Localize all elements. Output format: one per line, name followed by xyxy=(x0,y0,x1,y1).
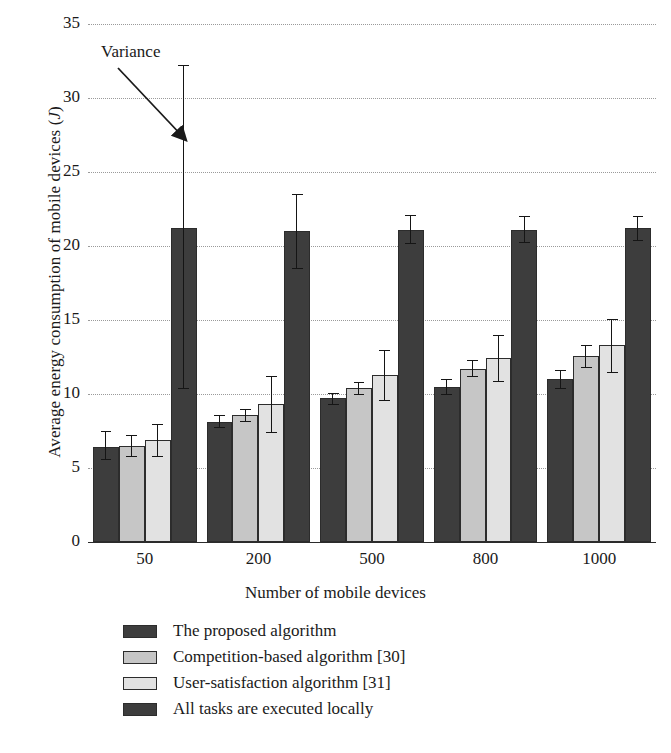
error-bar-cap-top xyxy=(581,345,592,346)
error-bar-line xyxy=(105,431,106,459)
error-bar-cap-bottom xyxy=(519,242,530,243)
legend-swatch-icon xyxy=(123,677,157,690)
error-bar-cap-bottom xyxy=(467,376,478,377)
bar xyxy=(434,387,460,542)
error-bar-cap-bottom xyxy=(328,404,339,405)
bar-group xyxy=(434,24,538,542)
error-bar-cap-bottom xyxy=(214,427,225,428)
error-bar-cap-top xyxy=(126,435,137,436)
error-bar-line xyxy=(131,435,132,456)
error-bar-cap-top xyxy=(354,382,365,383)
bar xyxy=(320,398,346,542)
error-bar-cap-top xyxy=(152,424,163,425)
y-axis-tick-label: 5 xyxy=(10,457,80,477)
error-bar-line xyxy=(271,376,272,432)
error-bar-cap-bottom xyxy=(607,372,618,373)
error-bar-cap-bottom xyxy=(178,388,189,389)
error-bar-line xyxy=(472,360,473,376)
error-bar-line xyxy=(332,393,333,405)
legend-item[interactable]: The proposed algorithm xyxy=(123,618,593,644)
error-bar-line xyxy=(219,415,220,427)
bar xyxy=(93,447,119,542)
error-bar-cap-bottom xyxy=(354,394,365,395)
error-bar-cap-bottom xyxy=(152,456,163,457)
x-axis-tick-label: 1000 xyxy=(539,549,659,569)
error-bar-cap-top xyxy=(467,360,478,361)
y-axis-title-unit: J xyxy=(45,112,64,120)
legend-label: Competition-based algorithm [30] xyxy=(173,647,405,667)
error-bar-cap-top xyxy=(266,376,277,377)
bar xyxy=(573,356,599,542)
bar xyxy=(346,388,372,542)
bar xyxy=(119,446,145,542)
error-bar-cap-bottom xyxy=(240,421,251,422)
bar xyxy=(547,379,573,542)
legend-label: All tasks are executed locally xyxy=(173,699,373,719)
error-bar-cap-bottom xyxy=(266,432,277,433)
legend-item[interactable]: All tasks are executed locally xyxy=(123,696,593,722)
error-bar-line xyxy=(358,382,359,394)
bar xyxy=(284,231,310,542)
y-axis-tick-label: 25 xyxy=(10,161,80,181)
bar xyxy=(207,422,233,542)
x-axis-tick-label: 50 xyxy=(85,549,205,569)
error-bar-cap-bottom xyxy=(493,381,504,382)
legend-label: User-satisfaction algorithm [31] xyxy=(173,673,391,693)
variance-annotation-label: Variance xyxy=(101,42,160,62)
y-axis-tick-label: 20 xyxy=(10,235,80,255)
error-bar-cap-top xyxy=(493,335,504,336)
error-bar-cap-top xyxy=(441,379,452,380)
error-bar-cap-top xyxy=(555,370,566,371)
x-axis-tick-label: 500 xyxy=(312,549,432,569)
bar xyxy=(398,230,424,542)
legend: The proposed algorithmCompetition-based … xyxy=(123,618,593,722)
bar-group xyxy=(207,24,311,542)
variance-annotation-arrow-icon xyxy=(112,62,222,152)
error-bar-line xyxy=(560,370,561,388)
error-bar-cap-top xyxy=(405,215,416,216)
legend-swatch-icon xyxy=(123,703,157,716)
error-bar-cap-top xyxy=(519,216,530,217)
error-bar-line xyxy=(611,319,612,372)
y-axis-tick-label: 30 xyxy=(10,87,80,107)
y-axis-title-suffix: ) xyxy=(45,106,64,112)
error-bar-line xyxy=(498,335,499,381)
bar xyxy=(599,345,625,542)
error-bar-line xyxy=(384,350,385,400)
error-bar-cap-top xyxy=(379,350,390,351)
error-bar-line xyxy=(410,215,411,243)
error-bar-cap-top xyxy=(633,216,644,217)
error-bar-cap-top xyxy=(328,393,339,394)
error-bar-cap-top xyxy=(292,194,303,195)
legend-item[interactable]: Competition-based algorithm [30] xyxy=(123,644,593,670)
error-bar-cap-bottom xyxy=(379,400,390,401)
error-bar-line xyxy=(245,409,246,421)
legend-item[interactable]: User-satisfaction algorithm [31] xyxy=(123,670,593,696)
error-bar-cap-top xyxy=(101,431,112,432)
bar-group xyxy=(547,24,651,542)
error-bar-cap-bottom xyxy=(292,268,303,269)
y-axis-tick-label: 15 xyxy=(10,309,80,329)
error-bar-cap-bottom xyxy=(581,367,592,368)
bar xyxy=(625,228,651,542)
x-axis-tick-label: 800 xyxy=(426,549,546,569)
error-bar-cap-bottom xyxy=(441,394,452,395)
error-bar-line xyxy=(585,345,586,367)
error-bar-line xyxy=(637,216,638,240)
legend-swatch-icon xyxy=(123,625,157,638)
chart-figure: Average energy consumption of mobile dev… xyxy=(0,0,671,753)
y-axis-tick-label: 35 xyxy=(10,13,80,33)
error-bar-line xyxy=(524,216,525,241)
x-axis-title: Number of mobile devices xyxy=(0,583,671,603)
legend-label: The proposed algorithm xyxy=(173,621,336,641)
y-axis-tick-label: 0 xyxy=(10,531,80,551)
error-bar-line xyxy=(446,379,447,394)
error-bar-cap-bottom xyxy=(633,240,644,241)
x-axis-line xyxy=(88,542,656,543)
error-bar-cap-bottom xyxy=(126,456,137,457)
error-bar-line xyxy=(157,424,158,457)
error-bar-cap-bottom xyxy=(555,388,566,389)
bar-group xyxy=(320,24,424,542)
bar xyxy=(232,415,258,542)
y-axis-tick-label: 10 xyxy=(10,383,80,403)
